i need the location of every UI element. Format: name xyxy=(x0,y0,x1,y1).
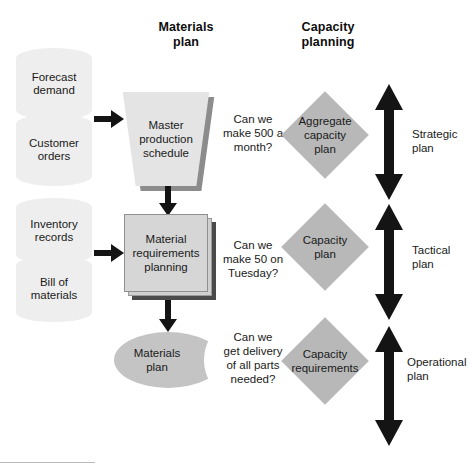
arrow-mps-to-mrp-icon xyxy=(157,186,179,216)
node-capacity-requirements: Capacityrequirements xyxy=(294,330,356,392)
input-forecast-demand: Forecastdemand xyxy=(16,48,92,120)
double-arrow-operational-icon xyxy=(372,326,406,446)
header-capacity-planning: Capacityplanning xyxy=(282,20,374,50)
node-aggregate-capacity-plan: Aggregatecapacityplan xyxy=(294,104,356,166)
node-material-requirements-planning-label: Materialrequirementsplanning xyxy=(124,232,208,274)
double-arrow-strategic-icon xyxy=(372,84,406,200)
question-operational: Can weget deliveryof all partsneeded? xyxy=(218,330,288,386)
input-bill-of-materials: Bill ofmaterials xyxy=(16,256,92,322)
plan-level-strategic: Strategicplan xyxy=(412,127,472,155)
plan-level-operational: Operationalplan xyxy=(407,355,472,383)
input-inventory-records: Inventoryrecords xyxy=(16,198,92,264)
node-aggregate-capacity-plan-label: Aggregatecapacityplan xyxy=(280,114,370,156)
input-inventory-records-label: Inventoryrecords xyxy=(30,218,77,245)
input-bill-of-materials-label: Bill ofmaterials xyxy=(31,276,78,303)
diagram-canvas: Materialsplan Capacityplanning Forecastd… xyxy=(0,0,472,465)
node-capacity-requirements-label: Capacityrequirements xyxy=(280,347,370,375)
node-capacity-plan-label: Capacityplan xyxy=(280,233,370,261)
input-customer-orders-label: Customerorders xyxy=(29,137,79,164)
header-materials-plan: Materialsplan xyxy=(140,20,232,50)
input-forecast-demand-label: Forecastdemand xyxy=(32,71,77,98)
question-strategic: Can wemake 500 amonth? xyxy=(218,112,288,154)
arrow-mrp-to-materials-plan-icon xyxy=(157,300,179,332)
node-master-production-schedule: Masterproductionschedule xyxy=(120,92,212,186)
node-materials-plan-label: Materialsplan xyxy=(118,346,196,374)
node-capacity-plan: Capacityplan xyxy=(294,216,356,278)
question-tactical: Can wemake 50 onTuesday? xyxy=(218,238,288,280)
input-customer-orders: Customerorders xyxy=(16,114,92,186)
node-materials-plan: Materialsplan xyxy=(114,332,222,388)
node-material-requirements-planning: Materialrequirementsplanning xyxy=(124,214,208,292)
double-arrow-tactical-icon xyxy=(372,204,406,320)
footer-divider xyxy=(0,462,95,463)
arrow-inputs-to-mrp-icon xyxy=(94,242,124,264)
plan-level-tactical: Tacticalplan xyxy=(412,243,472,271)
node-master-production-schedule-label: Masterproductionschedule xyxy=(120,118,212,160)
